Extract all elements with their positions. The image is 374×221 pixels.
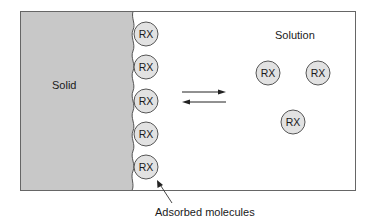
svg-text:RX: RX	[139, 161, 154, 173]
solution-molecule: RX	[281, 110, 305, 134]
adsorption-diagram: Solid Solution RX RX RX RX RX RX	[0, 0, 374, 221]
solid-region	[21, 12, 134, 191]
solution-molecule: RX	[256, 61, 280, 85]
solution-molecule: RX	[306, 61, 330, 85]
svg-text:RX: RX	[261, 67, 276, 79]
solid-label: Solid	[52, 79, 76, 91]
adsorbed-molecule: RX	[134, 89, 158, 113]
svg-text:RX: RX	[139, 61, 154, 73]
svg-text:RX: RX	[311, 67, 326, 79]
svg-text:RX: RX	[139, 28, 154, 40]
adsorbed-molecule: RX	[134, 22, 158, 46]
adsorbed-molecule: RX	[134, 155, 158, 179]
svg-text:RX: RX	[139, 128, 154, 140]
adsorbed-molecule: RX	[134, 55, 158, 79]
adsorbed-molecule: RX	[134, 122, 158, 146]
solution-label: Solution	[275, 29, 315, 41]
annotation-label: Adsorbed molecules	[155, 206, 255, 218]
svg-text:RX: RX	[139, 95, 154, 107]
svg-text:RX: RX	[286, 116, 301, 128]
